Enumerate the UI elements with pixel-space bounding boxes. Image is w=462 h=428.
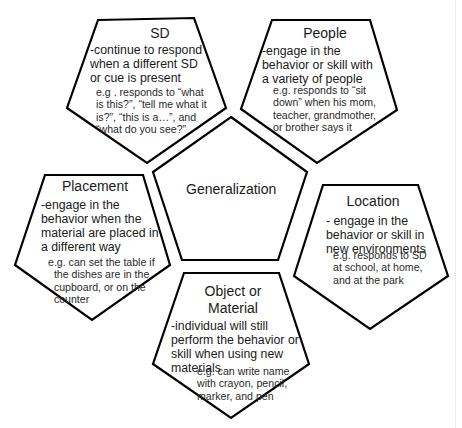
location-example: e.g. responds to SD at school, at home, … <box>333 249 427 286</box>
object-material-title: Object or Material <box>198 283 268 317</box>
sd-description: -continue to respond when a different SD… <box>90 43 202 85</box>
placement-description: -engage in the behavior when the materia… <box>41 198 159 254</box>
people-title: People <box>290 25 360 42</box>
location-title: Location <box>340 193 406 210</box>
sd-example: e.g . responds to “what is this?”, “tell… <box>96 86 207 135</box>
people-description: -engage in the behavior or skill with a … <box>262 44 373 86</box>
people-example: e.g. responds to “sit down” when his mom… <box>273 84 376 133</box>
placement-title: Placement <box>55 178 135 195</box>
object-material-example: e.g. can write name with crayon, pencil,… <box>197 365 289 402</box>
placement-example: e.g. can set the table if the dishes are… <box>48 256 155 305</box>
sd-title: SD <box>130 25 190 42</box>
center-label: Generalization <box>186 181 276 198</box>
